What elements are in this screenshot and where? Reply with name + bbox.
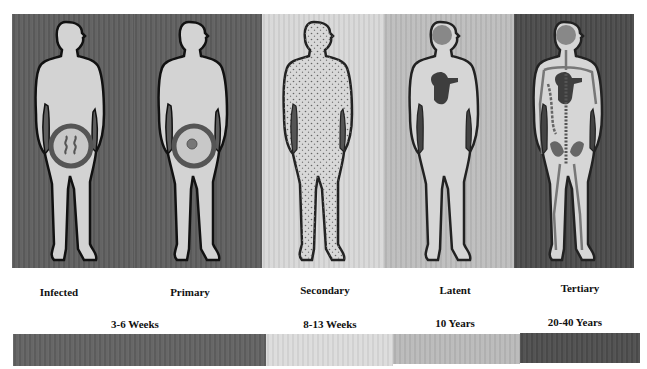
- stage-label-secondary: Secondary: [280, 284, 370, 296]
- timeline-bar-3-6-weeks: [13, 334, 266, 366]
- brain-icon: [432, 25, 452, 45]
- timeline-label-20-40-years: 20-40 Years: [520, 316, 630, 328]
- stage-label-infected: Infected: [24, 286, 94, 298]
- stage-label-tertiary: Tertiary: [540, 282, 620, 294]
- brain-icon: [556, 25, 576, 45]
- human-figure-latent: [384, 14, 514, 268]
- timeline-label-3-6-weeks: 3-6 Weeks: [80, 318, 190, 330]
- timeline-bar-10-years: [393, 334, 520, 364]
- timeline-bar-8-13-weeks: [266, 334, 393, 366]
- stage-label-primary: Primary: [155, 286, 225, 298]
- panel-tertiary: [514, 14, 634, 268]
- timeline-bar-20-40-years: [520, 333, 640, 363]
- human-figure-primary: [134, 14, 262, 268]
- human-figure-secondary: [262, 14, 384, 268]
- human-figure-infected: [12, 14, 134, 268]
- chancre-icon: [187, 139, 197, 149]
- timeline-label-10-years: 10 Years: [400, 317, 510, 329]
- stage-label-latent: Latent: [420, 284, 490, 296]
- panel-secondary: [262, 14, 384, 268]
- panel-primary: [134, 14, 262, 268]
- timeline-label-8-13-weeks: 8-13 Weeks: [275, 318, 385, 330]
- panel-latent: [384, 14, 514, 268]
- human-figure-tertiary: [514, 14, 634, 268]
- panel-infected: [12, 14, 134, 268]
